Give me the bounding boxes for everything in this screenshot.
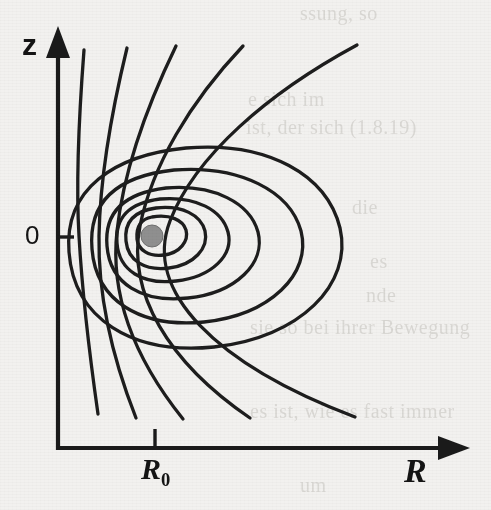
field-lines-group bbox=[69, 45, 357, 419]
r-axis-label: R bbox=[404, 452, 427, 490]
r0-base: R bbox=[141, 452, 161, 485]
r-axis-r0-label: R0 bbox=[141, 452, 170, 491]
z-axis-arrowhead bbox=[46, 26, 70, 58]
figure-root: ssung, so e sich im ist, der sich (1.8.1… bbox=[0, 0, 491, 510]
field-line-plot bbox=[0, 0, 491, 510]
open-field-line-5 bbox=[164, 45, 357, 417]
separatrix-outer-closed-loop bbox=[69, 147, 342, 348]
z-axis-origin-label: 0 bbox=[25, 220, 39, 251]
magnetic-axis-dot bbox=[141, 225, 163, 247]
r-axis-arrowhead bbox=[438, 436, 470, 460]
r0-subscript: 0 bbox=[161, 469, 170, 490]
z-axis-label: z bbox=[22, 28, 37, 62]
open-field-line-1 bbox=[78, 50, 98, 414]
